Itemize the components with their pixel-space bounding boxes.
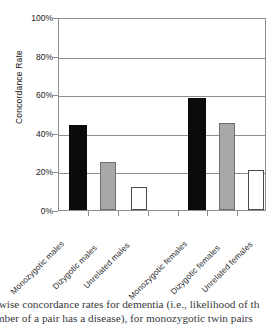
bar-unrelated-males [131,187,147,210]
caption-line-2: member of a pair has a disease), for mon… [0,312,275,326]
y-tick-label-80: 80% [9,52,53,62]
bar-dizygotic-males [100,162,116,210]
gridline-60 [59,96,265,97]
y-tick-label-60: 60% [9,90,53,100]
bar-unrelated-females [248,170,264,211]
x-label-monozygotic-females: Monozygotic females [127,239,189,301]
y-tick-label-100: 100% [9,13,53,23]
x-tick-mark-1 [88,211,89,216]
bar-monozygotic-females [188,98,206,210]
x-tick-mark-5 [207,211,208,216]
x-tick-mark-3 [148,211,149,216]
caption-line-1: dwise concordance rates for dementia (i.… [0,298,275,312]
bar-dizygotic-females [219,123,235,210]
figure-caption: dwise concordance rates for dementia (i.… [0,298,275,330]
plot-area [58,18,266,211]
y-tick-label-0: 0% [9,206,53,216]
x-tick-mark-4 [178,211,179,216]
x-tick-mark-2 [118,211,119,216]
bar-chart-figure: Concordance Rate 0% 20% 40% 60% 80% 100%… [0,0,275,298]
y-axis-title: Concordance Rate [14,32,24,142]
y-tick-mark-0 [53,211,58,212]
bar-monozygotic-males [69,125,87,210]
y-tick-label-40: 40% [9,129,53,139]
x-tick-mark-6 [237,211,238,216]
x-label-unrelated-females: Unrelated females [200,240,255,295]
y-tick-label-20: 20% [9,167,53,177]
gridline-80 [59,58,265,59]
